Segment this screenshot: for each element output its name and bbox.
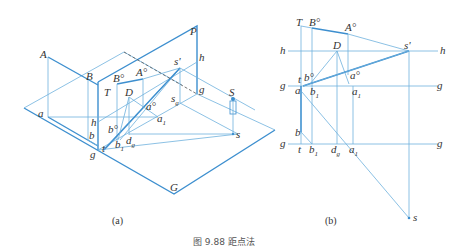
label-a1: a1	[157, 112, 166, 127]
label-a: a	[38, 107, 44, 119]
label-s-prime: s'	[404, 39, 411, 51]
label-s-g: sg	[171, 92, 179, 107]
subfigure-a: A B P T B° A° s' h D a° sg g S s a a1 h …	[24, 25, 275, 227]
label-a1-bottom: a1	[349, 143, 358, 158]
caption-b: (b)	[325, 215, 337, 227]
label-a: a	[295, 84, 301, 96]
label-h-left: h	[280, 44, 286, 56]
station-point-dot	[408, 217, 411, 220]
label-b: b	[89, 129, 95, 141]
label-d-g: dg	[331, 143, 341, 158]
label-S: S	[229, 86, 235, 98]
label-g-right: g	[199, 83, 205, 95]
label-s: s	[413, 211, 417, 223]
label-h-top: h	[199, 51, 205, 63]
label-T: T	[296, 16, 303, 28]
subfigure-b: T B° A° h D s' h t b° a° g a b1 a1 g b g…	[280, 16, 446, 227]
label-s-prime: s'	[174, 55, 181, 67]
label-D: D	[332, 39, 341, 51]
label-b: b	[295, 126, 301, 138]
label-g-right-1: g	[437, 79, 443, 91]
perspective-diagram: A B P T B° A° s' h D a° sg g S s a a1 h …	[0, 0, 458, 246]
label-g-left-1: g	[280, 79, 286, 91]
label-b1: b1	[115, 138, 124, 153]
label-T: T	[104, 86, 111, 98]
label-g-right-2: g	[437, 137, 443, 149]
label-b1: b1	[310, 85, 319, 100]
label-a-zero: a°	[350, 69, 361, 81]
caption-a: (a)	[112, 215, 123, 227]
label-B-zero: B°	[113, 72, 125, 84]
label-h: h	[91, 116, 97, 128]
label-A-zero: A°	[135, 66, 148, 78]
label-b-zero: b°	[108, 123, 119, 135]
label-g: g	[90, 148, 96, 160]
label-A-zero: A°	[344, 21, 357, 33]
label-B-zero: B°	[309, 16, 321, 28]
label-a-zero: a°	[146, 100, 157, 112]
label-b-zero: b°	[304, 71, 315, 83]
label-P: P	[189, 25, 197, 37]
label-t: t	[298, 143, 302, 155]
label-b1-bottom: b1	[309, 143, 318, 158]
figure-caption: 图 9.88 距点法	[193, 236, 255, 246]
label-s: s	[236, 128, 240, 140]
label-h-right: h	[440, 44, 446, 56]
label-G: G	[170, 181, 178, 193]
label-A: A	[39, 48, 47, 60]
label-B: B	[86, 70, 93, 82]
label-D: D	[124, 86, 133, 98]
label-g-left-2: g	[280, 137, 286, 149]
